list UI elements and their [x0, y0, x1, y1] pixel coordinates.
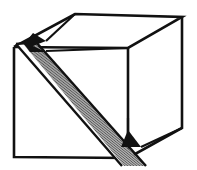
cube-illustration: Impossible cube line drawing Black-and-w…	[0, 0, 197, 170]
figure-canvas: Impossible cube line drawing Black-and-w…	[0, 0, 197, 170]
